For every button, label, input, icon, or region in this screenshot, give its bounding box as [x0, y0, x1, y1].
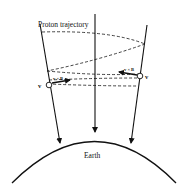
velocity-right-label: v	[145, 73, 149, 80]
proton-right	[137, 73, 143, 79]
earth-label: Earth	[84, 151, 100, 160]
proton-left	[46, 82, 52, 88]
title-label: Proton trajectory	[38, 20, 89, 29]
velocity-left-label: v	[38, 82, 42, 89]
right-field-line	[131, 25, 147, 143]
proton-trajectory-diagram: Proton trajectory Earth v v v × B v × B	[0, 0, 183, 193]
force-right-label: v × B	[124, 67, 134, 72]
force-left-label: v × B	[53, 76, 63, 81]
earth-surface	[12, 142, 176, 184]
